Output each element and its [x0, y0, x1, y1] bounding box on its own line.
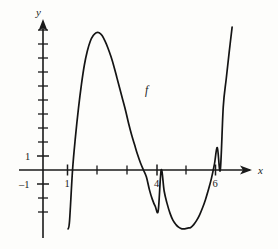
curve-label-f: f: [145, 84, 150, 97]
y-tick-label-1: 1: [25, 151, 30, 162]
function-curve-f: [68, 27, 232, 229]
x-tick-label-6: 6: [213, 178, 218, 189]
y-tick-label-minus-1: –1: [18, 179, 30, 190]
function-graph-figure: y x 1 –1 1 4 6 f: [0, 0, 278, 249]
x-tick-label-4: 4: [154, 178, 160, 189]
y-axis-label: y: [35, 6, 41, 18]
x-axis-label: x: [257, 164, 263, 176]
plot-canvas: y x 1 –1 1 4 6 f: [0, 0, 278, 249]
x-tick-label-1: 1: [65, 178, 70, 189]
